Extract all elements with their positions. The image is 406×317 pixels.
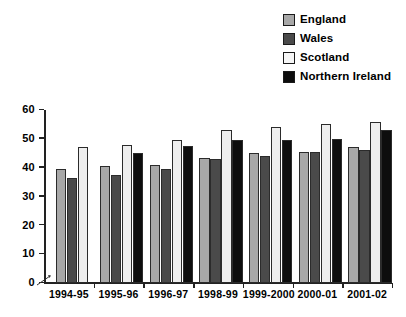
square-swatch-icon: [283, 33, 295, 45]
square-swatch-icon: [283, 14, 295, 26]
square-swatch-icon: [283, 71, 295, 83]
bar-groups: [44, 110, 392, 283]
legend-item-northern-ireland: Northern Ireland: [283, 67, 405, 86]
bar-england: [299, 152, 310, 283]
y-axis-tick-label: 10: [22, 247, 35, 259]
bar-scotland: [78, 147, 89, 283]
bar-scotland: [221, 130, 232, 283]
bar-wales: [359, 150, 370, 283]
legend-label: Scotland: [300, 52, 349, 64]
bar-group: [199, 110, 243, 283]
legend-item-scotland: Scotland: [283, 48, 405, 67]
bar-scotland: [321, 124, 332, 283]
bar-northern-ireland: [183, 146, 194, 283]
bar-england: [150, 165, 161, 283]
y-axis-tick-label: 50: [22, 132, 35, 144]
y-axis-tick-label: 40: [22, 161, 35, 173]
bar-chart: England Wales Scotland Northern Ireland …: [0, 0, 406, 317]
bar-scotland: [172, 140, 183, 283]
bar-england: [199, 158, 210, 283]
y-axis-tick-label: 30: [22, 190, 35, 202]
bar-wales: [161, 169, 172, 283]
square-swatch-icon: [283, 52, 295, 64]
x-axis-tick-label: 1996-97: [143, 288, 193, 300]
y-axis-tick-label: 60: [22, 103, 35, 115]
bar-northern-ireland: [133, 153, 144, 283]
bar-northern-ireland: [282, 140, 293, 283]
legend-item-wales: Wales: [283, 29, 405, 48]
bar-wales: [210, 159, 221, 283]
x-axis-tick-label: 1994-95: [44, 288, 94, 300]
bar-england: [249, 153, 260, 283]
bar-group: [299, 110, 343, 283]
bar-scotland: [271, 127, 282, 283]
bar-england: [348, 147, 359, 283]
legend-label: Wales: [300, 33, 333, 45]
bar-group: [56, 110, 89, 283]
plot-area: 0102030405060: [44, 110, 392, 283]
bar-northern-ireland: [381, 130, 392, 283]
legend-item-england: England: [283, 10, 405, 29]
bar-wales: [67, 178, 78, 283]
x-axis-tick-label: 2001-02: [342, 288, 392, 300]
bar-group: [249, 110, 293, 283]
bar-group: [348, 110, 392, 283]
bar-wales: [260, 156, 271, 283]
y-axis-tick-label: 20: [22, 219, 35, 231]
bar-northern-ireland: [332, 139, 343, 283]
bar-scotland: [370, 122, 381, 283]
y-axis-tick-label: 0: [29, 276, 35, 288]
bar-england: [100, 166, 111, 283]
chart-legend: England Wales Scotland Northern Ireland: [283, 10, 405, 86]
x-axis-tick-label: 1999-2000: [243, 288, 293, 300]
x-axis-tick-label: 1995-96: [94, 288, 144, 300]
x-axis-tick-label: 1998-99: [193, 288, 243, 300]
x-axis-labels: 1994-951995-961996-971998-991999-2000200…: [44, 288, 396, 308]
bar-wales: [111, 175, 122, 283]
legend-label: Northern Ireland: [300, 71, 391, 83]
bar-group: [150, 110, 194, 283]
bar-group: [100, 110, 144, 283]
bar-scotland: [122, 145, 133, 283]
x-axis-tick-label: 2000-01: [293, 288, 343, 300]
bar-northern-ireland: [232, 140, 243, 283]
origin-arrow-icon: [36, 274, 52, 286]
legend-label: England: [300, 14, 346, 26]
bar-england: [56, 169, 67, 283]
bar-wales: [310, 152, 321, 283]
